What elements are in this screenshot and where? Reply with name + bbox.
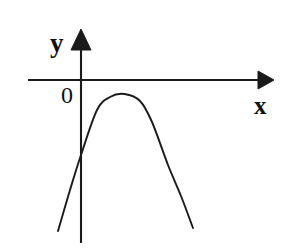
parabola-curve [58, 94, 193, 231]
parabola-figure: y x 0 [0, 0, 286, 249]
origin-label: 0 [61, 83, 73, 107]
y-axis-label: y [50, 30, 64, 57]
x-axis-arrowhead [258, 71, 274, 89]
x-axis-label: x [254, 93, 267, 118]
coordinate-diagram [0, 0, 286, 249]
y-axis-arrowhead [71, 29, 91, 50]
